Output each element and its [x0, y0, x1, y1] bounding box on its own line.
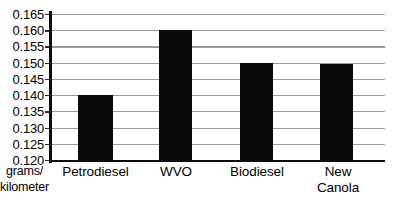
y-axis-caption: grams/ kilometer — [0, 164, 49, 195]
y-axis-caption-line: kilometer — [0, 180, 49, 196]
bar-series — [51, 0, 385, 160]
y-axis-tick-label: 0.140 — [0, 89, 44, 102]
y-axis-line — [49, 11, 52, 163]
x-axis-label-biodiesel: Biodiesel — [215, 164, 299, 180]
x-axis-label-petrodiesel: Petrodiesel — [53, 164, 138, 180]
x-axis-label-line: Canola — [317, 180, 359, 195]
y-axis-tick-label: 0.145 — [0, 73, 44, 86]
y-axis-tick-labels: 0.165 0.160 0.155 0.150 0.145 0.140 0.13… — [0, 0, 44, 168]
bar-wvo — [159, 30, 192, 160]
y-axis-tick-label: 0.150 — [0, 57, 44, 70]
y-axis-tick-label: 0.130 — [0, 122, 44, 135]
x-axis-label-wvo: WVO — [141, 164, 211, 180]
y-axis-tick-label: 0.135 — [0, 105, 44, 118]
bar-petrodiesel — [78, 95, 113, 160]
y-axis-tick-label: 0.155 — [0, 40, 44, 53]
y-axis-tick-label: 0.165 — [0, 8, 44, 21]
y-axis-tick-label: 0.160 — [0, 24, 44, 37]
x-axis-label-new-canola: New Canola — [303, 164, 373, 195]
y-axis-caption-line: grams/ — [0, 164, 49, 180]
y-axis-tick-label: 0.125 — [0, 138, 44, 151]
x-axis-line — [49, 160, 385, 163]
x-axis-category-labels: Petrodiesel WVO Biodiesel New Canola — [51, 164, 385, 207]
x-axis-label-line: New — [325, 164, 352, 179]
bar-chart: 0.165 0.160 0.155 0.150 0.145 0.140 0.13… — [0, 0, 395, 207]
bar-new-canola — [320, 64, 353, 160]
bar-biodiesel — [240, 63, 273, 160]
